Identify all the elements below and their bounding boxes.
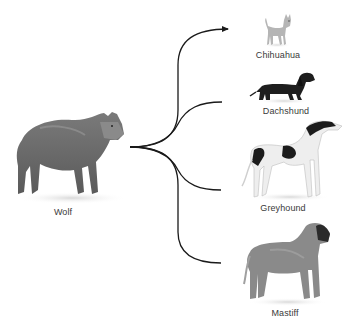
- label-chihuahua: Chihuahua: [256, 50, 300, 60]
- branch-mastiff: [130, 147, 221, 263]
- mastiff-illustration: [244, 223, 330, 306]
- label-wolf: Wolf: [54, 207, 72, 217]
- greyhound-illustration: [242, 121, 342, 201]
- branch-lines: [0, 0, 356, 330]
- branch-chihuahua: [130, 29, 228, 147]
- label-mastiff: Mastiff: [271, 308, 298, 318]
- label-greyhound: Greyhound: [260, 203, 305, 213]
- dachshund-illustration: [250, 73, 315, 104]
- wolf-illustration: [17, 112, 127, 204]
- label-dachshund: Dachshund: [263, 106, 309, 116]
- dog-evolution-diagram: Wolf Chihuahua Dachshund Greyhound Masti…: [0, 0, 356, 330]
- chihuahua-illustration: [263, 14, 291, 48]
